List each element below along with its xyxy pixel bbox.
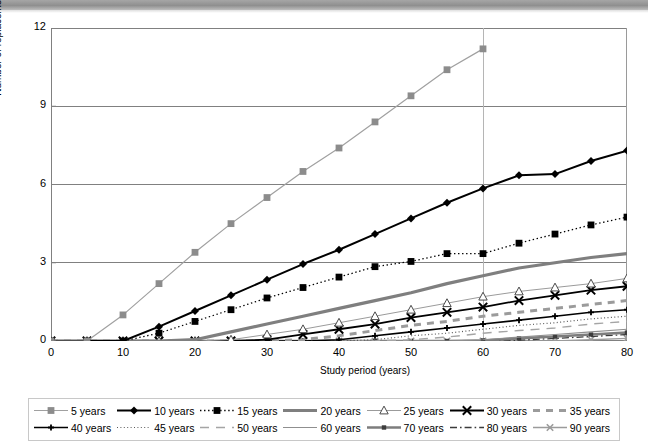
legend-swatch-icon	[282, 421, 318, 434]
marker-square	[264, 295, 271, 302]
legend-label: 80 years	[485, 422, 527, 434]
legend-item-5-years[interactable]: 5 years	[33, 402, 116, 419]
legend-label: 50 years	[235, 422, 277, 434]
marker-plus	[624, 307, 627, 313]
x-tick-label: 80	[607, 346, 647, 358]
legend-label: 60 years	[318, 422, 360, 434]
y-tick-label: 12	[20, 20, 46, 32]
y-axis-title: Number of replacements	[0, 0, 3, 131]
legend-item-60-years[interactable]: 60 years	[282, 419, 365, 436]
marker-square	[192, 249, 199, 256]
marker-square	[588, 222, 595, 229]
marker-plus	[552, 313, 558, 319]
marker-square	[336, 145, 343, 152]
legend-swatch-icon	[532, 421, 568, 434]
y-tick-label: 3	[20, 255, 46, 267]
y-tick-label: 0	[20, 333, 46, 345]
legend-item-15-years[interactable]: 15 years	[199, 402, 282, 419]
marker-square-small	[381, 425, 385, 429]
chart-figure: Number of replacements 036912 0102030405…	[0, 13, 648, 446]
legend-label: 25 years	[402, 405, 444, 417]
x-tick-label: 20	[175, 346, 215, 358]
marker-square	[300, 284, 307, 291]
x-tick-label: 60	[463, 346, 503, 358]
x-tick-label: 0	[31, 346, 71, 358]
legend-swatch-icon	[366, 404, 402, 417]
marker-square	[624, 214, 627, 221]
marker-triangle-open	[623, 274, 627, 282]
legend-item-80-years[interactable]: 80 years	[449, 419, 532, 436]
legend-swatch-icon	[199, 421, 235, 434]
x-axis-title-text: Study period (years)	[320, 365, 410, 376]
legend-label: 5 years	[69, 405, 105, 417]
legend-swatch-icon	[449, 404, 485, 417]
marker-square	[516, 240, 523, 247]
marker-square	[120, 312, 127, 319]
marker-diamond	[587, 157, 595, 165]
marker-plus	[444, 325, 450, 331]
series-30-years	[51, 282, 627, 341]
x-tick-label: 50	[391, 346, 431, 358]
marker-square	[408, 92, 415, 99]
legend-item-50-years[interactable]: 50 years	[199, 419, 282, 436]
marker-square-small	[589, 332, 593, 336]
marker-diamond	[551, 170, 559, 178]
marker-square	[480, 250, 487, 257]
x-tick-label: 70	[535, 346, 575, 358]
legend-swatch-icon	[33, 404, 69, 417]
x-tick-label: 30	[247, 346, 287, 358]
legend-label: 90 years	[568, 422, 610, 434]
legend-swatch-icon	[199, 404, 235, 417]
legend-swatch-icon	[116, 404, 152, 417]
plot-area	[51, 28, 627, 341]
x-axis-title: Study period (years)	[0, 365, 648, 376]
legend-item-90-years[interactable]: 90 years	[532, 419, 615, 436]
y-tick-label: 9	[20, 98, 46, 110]
marker-diamond	[130, 407, 138, 415]
marker-plus	[588, 309, 594, 315]
marker-square	[264, 194, 271, 201]
marker-square	[228, 220, 235, 227]
x-axis-tick-labels: 01020304050607080	[51, 346, 627, 362]
legend-label: 15 years	[235, 405, 277, 417]
legend-label: 35 years	[568, 405, 610, 417]
marker-plus	[516, 317, 522, 323]
marker-square	[300, 168, 307, 175]
marker-square	[552, 231, 559, 238]
legend-label: 10 years	[152, 405, 194, 417]
marker-plus	[480, 321, 486, 327]
legend-item-25-years[interactable]: 25 years	[366, 402, 449, 419]
legend-item-30-years[interactable]: 30 years	[449, 402, 532, 419]
legend-label: 70 years	[402, 422, 444, 434]
marker-diamond	[623, 147, 627, 155]
marker-plus	[408, 329, 414, 335]
legend-label: 20 years	[318, 405, 360, 417]
marker-square	[214, 407, 221, 414]
marker-diamond	[479, 184, 487, 192]
marker-plus	[48, 425, 54, 431]
marker-square	[336, 274, 343, 281]
x-tick-label: 40	[319, 346, 359, 358]
marker-square	[408, 258, 415, 265]
y-tick-label: 6	[20, 177, 46, 189]
legend-swatch-icon	[532, 404, 568, 417]
top-banner-bar	[0, 0, 648, 10]
marker-diamond	[191, 307, 199, 315]
legend-item-40-years[interactable]: 40 years	[33, 419, 116, 436]
marker-diamond	[263, 276, 271, 284]
marker-square	[444, 66, 451, 73]
legend-swatch-icon	[366, 421, 402, 434]
marker-plus	[336, 337, 342, 341]
marker-diamond	[227, 291, 235, 299]
legend-item-20-years[interactable]: 20 years	[282, 402, 365, 419]
legend-item-45-years[interactable]: 45 years	[116, 419, 199, 436]
marker-square-small	[625, 330, 627, 334]
x-tick-label: 10	[103, 346, 143, 358]
legend-item-70-years[interactable]: 70 years	[366, 419, 449, 436]
series-line	[51, 286, 627, 341]
legend-swatch-icon	[449, 421, 485, 434]
legend-item-10-years[interactable]: 10 years	[116, 402, 199, 419]
legend-item-35-years[interactable]: 35 years	[532, 402, 615, 419]
marker-square	[156, 280, 163, 287]
marker-diamond	[371, 230, 379, 238]
